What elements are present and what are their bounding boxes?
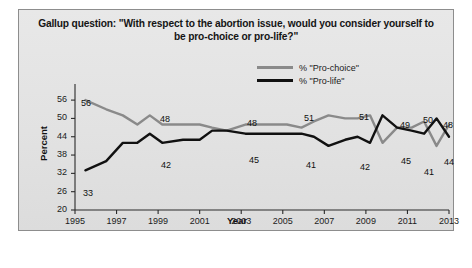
- data-point-label: 42: [360, 162, 370, 172]
- data-point-label: 44: [444, 157, 454, 167]
- y-tick-label: 26: [45, 186, 67, 196]
- x-tick-label: 1995: [58, 216, 92, 226]
- y-tick-label: 44: [45, 131, 67, 141]
- x-tick-label: 2001: [183, 216, 217, 226]
- y-tick-label: 38: [45, 149, 67, 159]
- data-point-label: 49: [400, 120, 410, 130]
- x-tick-label: 2003: [224, 216, 258, 226]
- data-point-label: 51: [304, 113, 314, 123]
- chart-canvas: [19, 10, 455, 232]
- data-point-label: 45: [401, 156, 411, 166]
- data-point-label: 45: [249, 155, 259, 165]
- x-tick-label: 2005: [266, 216, 300, 226]
- x-tick-label: 2009: [349, 216, 383, 226]
- y-axis-label: Percent: [38, 114, 49, 174]
- y-tick-label: 50: [45, 112, 67, 122]
- x-tick-label: 1999: [141, 216, 175, 226]
- y-tick-label: 32: [45, 167, 67, 177]
- plot-area: Percent Year 202632384450561995199719992…: [19, 10, 455, 232]
- data-point-label: 48: [160, 114, 170, 124]
- x-tick-label: 1997: [100, 216, 134, 226]
- data-point-label: 51: [359, 112, 369, 122]
- data-point-label: 42: [161, 160, 171, 170]
- chart-figure: Gallup question: "With respect to the ab…: [18, 9, 454, 231]
- data-point-label: 50: [423, 115, 433, 125]
- data-point-label: 56: [81, 98, 91, 108]
- data-point-label: 48: [443, 120, 453, 130]
- x-tick-label: 2013: [432, 216, 466, 226]
- y-tick-label: 20: [45, 204, 67, 214]
- data-point-label: 41: [306, 160, 316, 170]
- x-tick-label: 2011: [390, 216, 424, 226]
- data-point-label: 33: [83, 188, 93, 198]
- data-point-label: 41: [424, 167, 434, 177]
- series-line-pro-choice: [85, 100, 449, 146]
- y-tick-label: 56: [45, 94, 67, 104]
- data-point-label: 48: [247, 118, 257, 128]
- x-tick-label: 2007: [307, 216, 341, 226]
